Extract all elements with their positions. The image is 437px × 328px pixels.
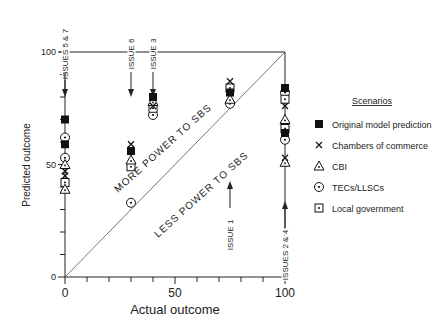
legend-title: Scenarios <box>352 96 393 106</box>
y-tick-label: 0 <box>51 272 56 282</box>
circle-dot <box>318 186 320 188</box>
triangle-icon <box>314 161 324 170</box>
issue-label: ISSUE 6 <box>127 38 136 69</box>
triangle-icon <box>126 155 136 164</box>
issue-label: ISSUE 1 <box>226 219 235 250</box>
diagonal-reference-line <box>65 52 285 277</box>
cross-icon <box>316 142 322 148</box>
filled-square-icon <box>149 93 157 101</box>
data-point-triangle <box>280 115 290 124</box>
filled-square-icon <box>226 89 234 97</box>
filled-square-icon <box>281 84 289 92</box>
legend-item: Local government <box>315 204 404 214</box>
triangle-dot <box>284 162 286 164</box>
legend-label: Original model prediction <box>332 120 432 130</box>
chart: 050100050100 ISSUES 5 & 7ISSUE 6ISSUE 3I… <box>0 0 437 328</box>
data-point-filled-square <box>61 116 69 124</box>
region-label-less-power: LESS POWER TO SBS <box>152 150 250 240</box>
legend-item: Original model prediction <box>315 120 432 130</box>
data-point-triangle <box>126 155 136 164</box>
legend-marker <box>315 204 323 212</box>
square-dot <box>152 107 154 109</box>
cross-icon <box>227 78 233 84</box>
legend-marker <box>315 183 324 192</box>
arrow-up-icon <box>282 201 288 209</box>
legend-marker <box>315 120 323 128</box>
data-point-filled-square <box>281 84 289 92</box>
arrow-down-icon <box>128 89 134 97</box>
data-point-filled-square <box>149 93 157 101</box>
y-tick-label: 50 <box>46 160 56 170</box>
legend-label: Local government <box>332 204 404 214</box>
legend-label: Chambers of commerce <box>332 141 428 151</box>
issue-annotation: ISSUE 1 <box>226 181 235 250</box>
x-axis-label: Actual outcome <box>130 302 220 317</box>
issue-label: ISSUES 2 & 4 <box>281 229 290 280</box>
triangle-icon <box>280 115 290 124</box>
axes: 050100050100 <box>41 47 295 300</box>
circle-dot <box>152 114 154 116</box>
filled-square-icon <box>281 129 289 137</box>
legend-marker <box>316 142 322 148</box>
issue-annotation: ISSUE 3 <box>149 38 158 97</box>
data-point-dotted-square <box>281 95 289 103</box>
filled-square-icon <box>61 116 69 124</box>
y-axis-label: Predicted outcome <box>21 123 32 207</box>
legend-item: CBI <box>314 161 347 172</box>
issue-annotation: ISSUE 6 <box>127 38 136 97</box>
cross-icon <box>128 141 134 147</box>
filled-square-icon <box>127 147 135 155</box>
issue-label: ISSUES 5 & 7 <box>61 28 70 79</box>
data-point-filled-square <box>127 147 135 155</box>
data-point-triangle <box>280 157 290 166</box>
legend-marker <box>314 161 324 170</box>
x-tick-label: 0 <box>62 286 69 300</box>
legend-item: Chambers of commerce <box>316 141 428 151</box>
data-point-cross <box>227 78 233 84</box>
circle-dot <box>130 202 132 204</box>
x-tick-label: 50 <box>168 286 182 300</box>
triangle-dot <box>130 160 132 162</box>
data-point-filled-square <box>281 129 289 137</box>
data-point-cross <box>128 141 134 147</box>
triangle-dot <box>64 189 66 191</box>
issue-label: ISSUE 3 <box>149 38 158 69</box>
data-point-dotted-circle <box>127 198 136 207</box>
data-point-filled-square <box>226 89 234 97</box>
triangle-dot <box>229 99 231 101</box>
circle-dot <box>284 139 286 141</box>
legend-label: CBI <box>332 162 347 172</box>
arrow-down-icon <box>62 89 68 97</box>
square-dot <box>284 98 286 100</box>
y-tick-label: 100 <box>41 47 56 57</box>
triangle-dot <box>64 165 66 167</box>
issue-annotations: ISSUES 5 & 7ISSUE 6ISSUE 3ISSUE 1ISSUES … <box>61 28 290 280</box>
arrow-up-icon <box>227 181 233 189</box>
triangle-dot <box>152 102 154 104</box>
square-dot <box>64 182 66 184</box>
issue-annotation: ISSUES 2 & 4 <box>281 201 290 280</box>
triangle-dot <box>318 166 320 168</box>
triangle-dot <box>284 120 286 122</box>
square-dot <box>318 207 320 209</box>
triangle-icon <box>280 157 290 166</box>
x-tick-label: 100 <box>275 286 295 300</box>
legend-item: TECs/LLSCs <box>315 183 385 193</box>
circle-dot <box>64 136 66 138</box>
filled-square-icon <box>61 140 69 148</box>
filled-square-icon <box>315 120 323 128</box>
legend-label: TECs/LLSCs <box>332 183 385 193</box>
data-point-filled-square <box>61 140 69 148</box>
legend: Original model predictionChambers of com… <box>314 120 432 214</box>
issue-annotation: ISSUES 5 & 7 <box>61 28 70 97</box>
